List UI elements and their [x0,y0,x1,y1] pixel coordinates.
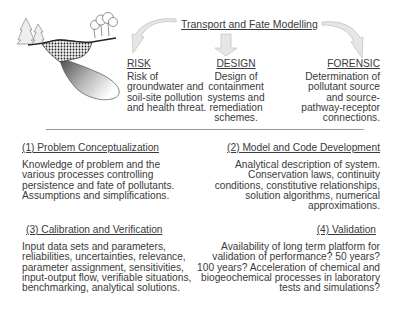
step-model-code-development: (2) Model and Code Development Analytica… [180,143,380,211]
step-validation: (4) Validation Availability of long term… [180,225,380,293]
arrow-to-design-icon [215,34,237,56]
branch-risk-text: and health threat. [127,103,206,113]
branch-design-heading: DESIGN [206,59,266,69]
branch-forensic: FORENSIC Determination of pollutant sour… [290,59,380,123]
branch-risk-heading: RISK [127,59,206,69]
branch-forensic-text: connections. [290,113,380,123]
step-2-text: approximations. [180,201,380,211]
step-4-heading: (4) Validation [180,225,376,235]
step-problem-conceptualization: (1) Problem Conceptualization Knowledge … [22,143,174,201]
branch-risk: RISK Risk of groundwater and soil-site p… [127,59,206,113]
step-3-heading: (3) Calibration and Verification [26,225,191,235]
branch-forensic-heading: FORENSIC [290,59,380,69]
branch-design: DESIGN Design of containment systems and… [206,59,266,123]
step-2-heading: (2) Model and Code Development [180,143,380,153]
arrow-to-risk-icon [132,19,176,53]
step-calibration-verification: (3) Calibration and Verification Input d… [22,225,191,293]
diagram-title: Transport and Fate Modelling [181,19,318,29]
step-3-text: benchmarking, analytical solutions. [22,283,191,293]
section-divider [46,129,364,130]
branch-design-text: schemes. [206,113,266,123]
step-4-text: tests and simulations? [180,283,380,293]
step-1-text: Assumptions and simplifications. [22,191,174,201]
step-1-heading: (1) Problem Conceptualization [22,143,174,153]
arrow-to-forensic-icon [322,22,363,58]
